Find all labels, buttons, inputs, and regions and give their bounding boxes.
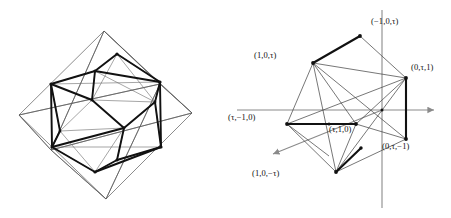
vertex-label-p3: (0,τ,1): [411, 62, 434, 72]
octahedron-icosahedron-svg: [0, 0, 225, 218]
bold-edge-bottom: [336, 148, 361, 172]
vertex-label-p4: (τ,−1,0): [228, 112, 255, 122]
vertex-label-p5: (τ,1,0): [329, 124, 352, 134]
vertex-dots: [285, 34, 408, 174]
coordinate-diagram-svg: [225, 0, 451, 218]
polyhedron-bold-edges: [287, 36, 406, 172]
vertex-label-p6: (0,τ,−1): [382, 141, 409, 151]
right-panel-coordinate-diagram: (−1,0,τ) (1,0,τ) (0,τ,1) (τ,−1,0) (τ,1,0…: [225, 0, 451, 218]
figure-root: (−1,0,τ) (1,0,τ) (0,τ,1) (τ,−1,0) (τ,1,0…: [0, 0, 451, 218]
left-panel-octahedron-icosahedron: [0, 0, 225, 218]
vertex-label-p2: (1,0,τ): [254, 50, 277, 60]
coordinate-axes: [237, 10, 434, 208]
vertex-label-p7: (1,0,−τ): [252, 168, 279, 178]
bold-edge-top: [313, 36, 360, 63]
polyhedron-thin-edges: [287, 36, 406, 172]
octahedron-thin-edges: [19, 31, 192, 199]
vertex-label-p1: (−1,0,τ): [371, 16, 398, 26]
